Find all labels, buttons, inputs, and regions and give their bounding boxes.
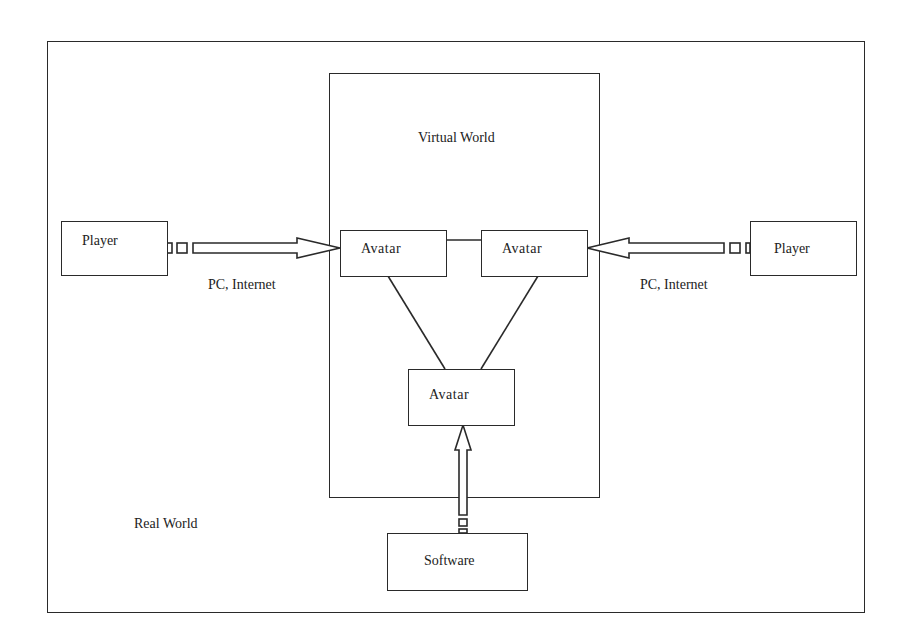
edge-avatar-left-to-avatar-bottom bbox=[388, 276, 445, 369]
arrow-software-to-avatar bbox=[455, 425, 471, 533]
player-left-label: Player bbox=[82, 233, 118, 249]
connection-label-right: PC, Internet bbox=[640, 277, 708, 293]
avatar-bottom-node: Avatar bbox=[408, 369, 515, 426]
avatar-left-node: Avatar bbox=[340, 230, 447, 277]
avatar-left-label: Avatar bbox=[361, 241, 401, 257]
player-left-node: Player bbox=[61, 221, 168, 276]
diagram-canvas: Virtual World Player Player Avatar Avata… bbox=[0, 0, 902, 642]
software-label: Software bbox=[424, 553, 475, 569]
connection-label-left: PC, Internet bbox=[208, 277, 276, 293]
avatar-bottom-label: Avatar bbox=[429, 387, 469, 403]
arrow-right-player-to-avatar bbox=[587, 238, 750, 258]
edge-avatar-right-to-avatar-bottom bbox=[481, 276, 538, 369]
real-world-label: Real World bbox=[134, 516, 198, 532]
virtual-world-label: Virtual World bbox=[418, 130, 495, 146]
avatar-right-node: Avatar bbox=[481, 230, 588, 277]
player-right-node: Player bbox=[750, 221, 857, 276]
arrow-left-player-to-avatar bbox=[167, 238, 340, 258]
avatar-right-label: Avatar bbox=[502, 241, 542, 257]
player-right-label: Player bbox=[774, 241, 810, 257]
software-node: Software bbox=[387, 533, 528, 591]
